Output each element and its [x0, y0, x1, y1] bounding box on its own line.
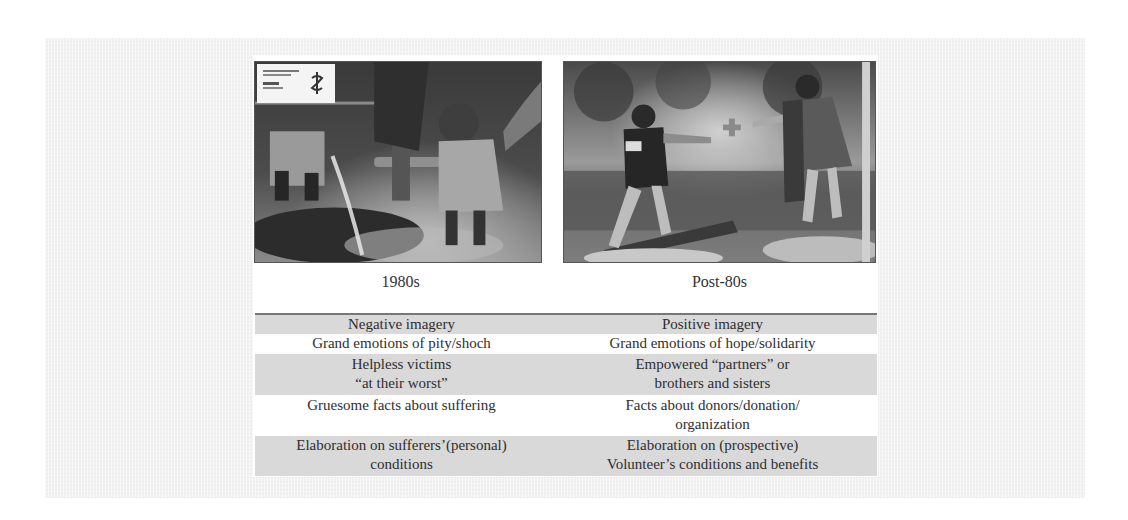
comparison-table: Negative imagery Positive imagery Grand … — [255, 313, 877, 476]
table-cell-1980s: Negative imagery — [255, 315, 548, 334]
table-cell-1980s: Elaboration on sufferers’(personal) cond… — [255, 436, 548, 476]
table-row: Grand emotions of pity/shoch Grand emoti… — [255, 334, 877, 354]
photo-post-80s-image — [564, 62, 875, 262]
table-row: Gruesome facts about suffering Facts abo… — [255, 395, 877, 436]
amnesty-candle-icon — [257, 64, 335, 103]
table-cell-post-80s: Facts about donors/donation/ organizatio… — [548, 396, 877, 436]
era-label-1980s: 1980s — [254, 273, 547, 291]
era-label-post-80s: Post-80s — [563, 273, 876, 291]
table-cell-1980s: Gruesome facts about suffering — [255, 396, 548, 436]
table-cell-post-80s: Empowered “partners” or brothers and sis… — [548, 355, 877, 395]
table-cell-post-80s: Grand emotions of hope/solidarity — [548, 334, 877, 354]
photo-post-80s — [563, 61, 876, 263]
photo-1980s — [254, 61, 542, 263]
table-cell-1980s: Helpless victims “at their worst” — [255, 355, 548, 395]
table-row: Negative imagery Positive imagery — [255, 315, 877, 334]
table-row: Helpless victims “at their worst” Empowe… — [255, 354, 877, 395]
table-cell-post-80s: Positive imagery — [548, 315, 877, 334]
amnesty-logo-box — [257, 64, 335, 103]
table-cell-post-80s: Elaboration on (prospective) Volunteer’s… — [548, 436, 877, 476]
table-cell-1980s: Grand emotions of pity/shoch — [255, 334, 548, 354]
table-row: Elaboration on sufferers’(personal) cond… — [255, 436, 877, 476]
